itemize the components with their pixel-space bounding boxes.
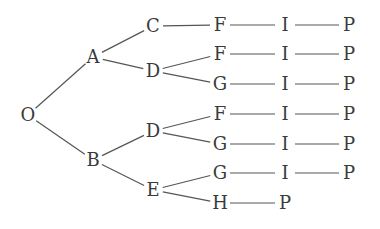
tree-edge-d2-g2: [163, 133, 210, 142]
tree-node-f1: F: [214, 16, 227, 34]
tree-node-g1: G: [213, 75, 227, 93]
tree-edge-o-b: [36, 121, 85, 155]
tree-node-f2: F: [214, 45, 227, 63]
tree-node-d1: D: [146, 62, 160, 80]
tree-node-p3: P: [343, 75, 355, 93]
tree-edge-d1-g1: [163, 73, 210, 82]
tree-node-f3: F: [214, 105, 227, 123]
tree-node-i3: I: [281, 75, 288, 93]
tree-node-e: E: [146, 181, 159, 199]
tree-node-a: A: [87, 48, 100, 66]
tree-node-p1: P: [343, 16, 355, 34]
tree-edge-e-g3: [163, 176, 211, 188]
tree-node-c: C: [146, 17, 160, 35]
tree-node-p5: P: [343, 135, 355, 153]
tree-node-g2: G: [213, 135, 227, 153]
tree-node-d2: D: [146, 122, 160, 140]
tree-node-i5: I: [281, 135, 288, 153]
tree-edge-d2-f3: [163, 117, 211, 129]
tree-node-p7: P: [279, 194, 291, 212]
tree-edge-b-e: [102, 165, 144, 186]
tree-edge-d1-f2: [163, 57, 211, 69]
tree-edge-c-f1: [163, 25, 210, 26]
tree-node-p4: P: [343, 105, 355, 123]
tree-node-b: B: [86, 151, 99, 169]
tree-edge-a-d1: [103, 59, 144, 68]
tree-edge-o-a: [36, 64, 86, 109]
tree-edge-b-d2: [102, 135, 144, 155]
tree-node-p6: P: [343, 164, 355, 182]
tree-diagram: OABCDDEFFGFGGHIIIIIIPPPPPPP: [0, 0, 380, 229]
tree-node-p2: P: [343, 45, 355, 63]
tree-node-i1: I: [281, 16, 288, 34]
tree-node-o: O: [21, 106, 36, 124]
tree-node-i4: I: [281, 105, 288, 123]
tree-node-g3: G: [213, 164, 227, 182]
tree-edge-e-h: [163, 192, 210, 201]
tree-node-i6: I: [281, 164, 288, 182]
tree-edge-a-c: [102, 31, 144, 53]
tree-node-h: H: [212, 194, 228, 212]
tree-node-i2: I: [281, 45, 288, 63]
tree-edges: [0, 0, 380, 229]
